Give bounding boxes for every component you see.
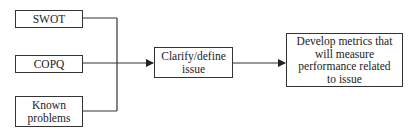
develop-metrics-label: Develop metrics that will measure perfor… [293,35,396,85]
develop-metrics-box: Develop metrics that will measure perfor… [286,33,403,87]
copq-label: COPQ [34,58,65,71]
swot-label: SWOT [33,13,66,26]
swot-box: SWOT [15,10,83,28]
known-problems-box: Known problems [15,96,83,127]
copq-box: COPQ [15,55,83,73]
clarify-issue-label: Clarify/define issue [159,50,228,75]
known-problems-label: Known problems [24,99,74,124]
clarify-issue-box: Clarify/define issue [154,47,233,78]
